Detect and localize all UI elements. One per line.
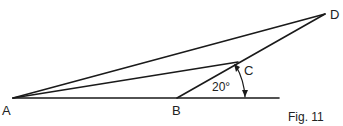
point-label-d: D — [330, 7, 339, 22]
point-label-a: A — [2, 103, 11, 118]
point-label-c: C — [244, 63, 253, 78]
arc-arrow-bottom-icon — [242, 90, 248, 97]
line-a-d — [13, 14, 325, 98]
geometry-figure: A B C D 20° Fig. 11 — [0, 0, 343, 126]
point-label-b: B — [172, 103, 181, 118]
line-b-d — [177, 14, 325, 98]
angle-label: 20° — [212, 80, 230, 94]
figure-caption: Fig. 11 — [288, 110, 324, 124]
